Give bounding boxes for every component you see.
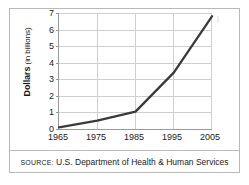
y-axis-tick-labels: 7 6 5 4 3 2 1 0 [40, 13, 54, 129]
source-label: SOURCE: [20, 159, 53, 166]
plot-area [58, 13, 212, 130]
y-axis-label: Dollars (in billions) [22, 10, 32, 114]
x-tick-label: 1975 [79, 132, 113, 142]
source-note: SOURCE: U.S. Department of Health & Huma… [10, 151, 239, 173]
x-tick-label: 2005 [193, 132, 227, 142]
x-tick-label: 1995 [155, 132, 189, 142]
x-axis-tick-labels: 1965 1975 1985 1995 2005 [58, 132, 211, 146]
y-tick-label: 2 [40, 91, 54, 100]
y-tick-label: 6 [40, 25, 54, 34]
y-axis-label-bold: Dollars [22, 67, 32, 97]
x-tick-label: 1965 [41, 132, 75, 142]
y-axis-label-light: (in billions) [23, 28, 32, 65]
y-tick-mark [56, 129, 59, 130]
y-tick-label: 3 [40, 75, 54, 84]
y-tick-label: 4 [40, 58, 54, 67]
data-line-series [59, 13, 212, 129]
y-tick-label: 7 [40, 9, 54, 18]
source-text: U.S. Department of Health & Human Servic… [56, 157, 228, 167]
chart-plot-container: Dollars (in billions) 7 6 5 4 3 2 1 0 [10, 9, 239, 149]
y-tick-label: 1 [40, 108, 54, 117]
scan-artifact-mark [217, 16, 219, 23]
chart-figure: Dollars (in billions) 7 6 5 4 3 2 1 0 [9, 8, 240, 173]
x-tick-label: 1985 [117, 132, 151, 142]
y-tick-label: 5 [40, 42, 54, 51]
